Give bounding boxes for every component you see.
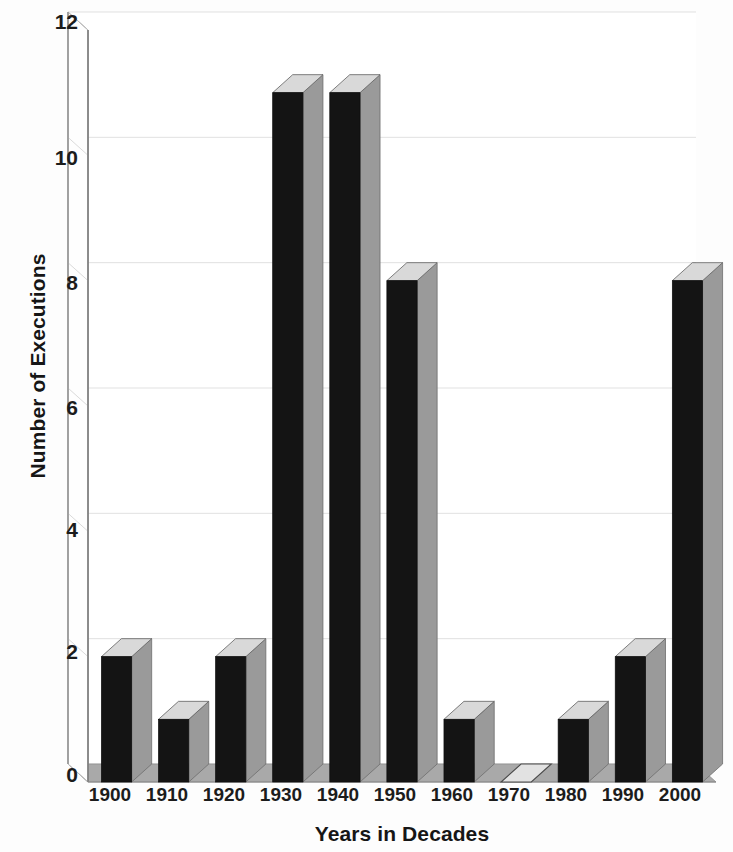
y-axis-title: Number of Executions xyxy=(26,176,50,556)
y-tick-label: 10 xyxy=(34,146,78,170)
bar-1910 xyxy=(159,701,209,782)
bar-1950 xyxy=(387,263,437,782)
y-tick-label: 12 xyxy=(34,10,78,34)
y-tick-label: 2 xyxy=(34,640,78,664)
chart-canvas xyxy=(0,0,733,852)
bar-1930 xyxy=(273,75,323,782)
x-tick-label: 2000 xyxy=(644,784,716,806)
bar-2000 xyxy=(672,263,722,782)
bar-chart-figure: 12 10 8 6 4 2 0 1900 1910 1920 1930 1940… xyxy=(0,0,733,852)
bar-1990 xyxy=(615,639,665,782)
bar-1980 xyxy=(558,701,608,782)
bar-1940 xyxy=(330,75,380,782)
bar-1900 xyxy=(101,639,151,782)
bar-1920 xyxy=(216,639,266,782)
bar-1960 xyxy=(444,701,494,782)
y-tick-label: 0 xyxy=(34,763,78,787)
plot-area xyxy=(0,0,733,852)
x-axis-title: Years in Decades xyxy=(88,822,716,846)
